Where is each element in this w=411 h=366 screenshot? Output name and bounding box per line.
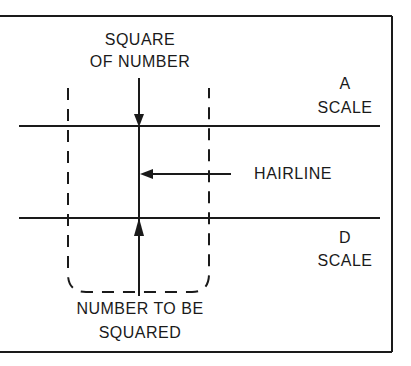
- label-number-to-be-squared-line2: SQUARED: [86, 323, 194, 343]
- arrow-down-icon: [134, 78, 144, 127]
- label-d-scale-line2: SCALE: [306, 251, 384, 271]
- label-a-scale-line2: SCALE: [306, 98, 384, 118]
- arrow-left-icon: [140, 169, 231, 179]
- label-hairline: HAIRLINE: [238, 164, 348, 184]
- label-d-scale-line1: D: [320, 228, 370, 248]
- arrow-up-icon: [134, 218, 144, 296]
- label-number-to-be-squared-line1: NUMBER TO BE: [56, 299, 224, 319]
- label-square-of-number-line2: OF NUMBER: [70, 52, 210, 72]
- label-square-of-number-line1: SQUARE: [88, 30, 192, 50]
- label-a-scale-line1: A: [320, 74, 370, 94]
